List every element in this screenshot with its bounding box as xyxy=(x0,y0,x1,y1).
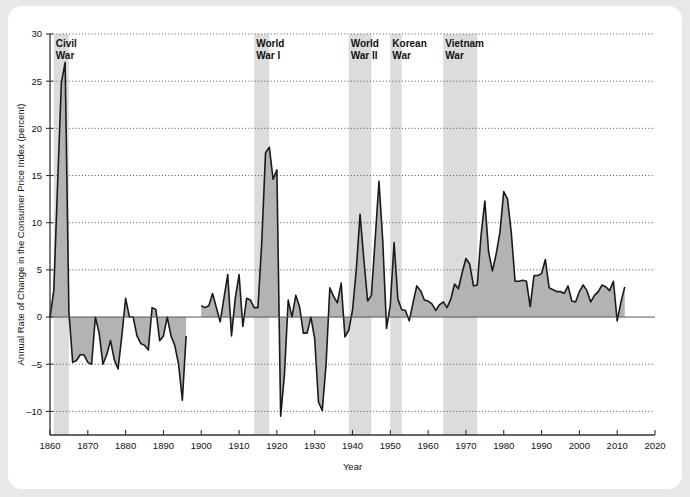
x-tick-label: 1940 xyxy=(342,440,363,451)
x-tick-label: 1910 xyxy=(228,440,249,451)
y-tick-label: 20 xyxy=(31,123,42,134)
war-label-1-line2: War xyxy=(56,50,75,61)
y-tick-label: –5 xyxy=(31,359,42,370)
war-label-5-line2: War xyxy=(445,50,464,61)
x-tick-label: 1960 xyxy=(418,440,439,451)
chart-svg: –10–505101520253018601870188018901900191… xyxy=(0,0,690,497)
y-tick-label: 25 xyxy=(31,76,42,87)
x-tick-label: 2000 xyxy=(569,440,590,451)
x-tick-label: 1980 xyxy=(493,440,514,451)
x-tick-label: 1880 xyxy=(115,440,136,451)
war-label-4-line1: Korean xyxy=(392,38,426,49)
y-tick-label: 0 xyxy=(37,311,42,322)
x-tick-label: 1920 xyxy=(266,440,287,451)
y-axis-title: Annual Rate of Change in the Consumer Pr… xyxy=(15,104,26,366)
x-tick-label: 1930 xyxy=(304,440,325,451)
war-label-3-line1: World xyxy=(351,38,379,49)
war-band-5 xyxy=(443,34,477,435)
y-tick-label: 5 xyxy=(37,264,42,275)
x-tick-label: 1990 xyxy=(531,440,552,451)
x-tick-label: 1970 xyxy=(455,440,476,451)
x-tick-label: 1860 xyxy=(39,440,60,451)
x-axis-title: Year xyxy=(343,461,362,472)
x-tick-label: 1950 xyxy=(380,440,401,451)
y-tick-label: –10 xyxy=(26,406,42,417)
war-label-4-line2: War xyxy=(392,50,411,61)
war-label-5-line1: Vietnam xyxy=(445,38,484,49)
x-tick-label: 2010 xyxy=(607,440,628,451)
war-label-3-line2: War II xyxy=(351,50,378,61)
y-tick-label: 15 xyxy=(31,170,42,181)
war-label-1-line1: Civil xyxy=(56,38,77,49)
x-tick-label: 2020 xyxy=(644,440,665,451)
x-tick-label: 1900 xyxy=(191,440,212,451)
cpi-inflation-chart: –10–505101520253018601870188018901900191… xyxy=(0,0,690,497)
y-tick-label: 10 xyxy=(31,217,42,228)
x-tick-label: 1870 xyxy=(77,440,98,451)
war-label-2-line2: War I xyxy=(256,50,280,61)
y-tick-label: 30 xyxy=(31,28,42,39)
war-label-2-line1: World xyxy=(256,38,284,49)
x-tick-label: 1890 xyxy=(153,440,174,451)
war-band-4 xyxy=(390,34,401,435)
